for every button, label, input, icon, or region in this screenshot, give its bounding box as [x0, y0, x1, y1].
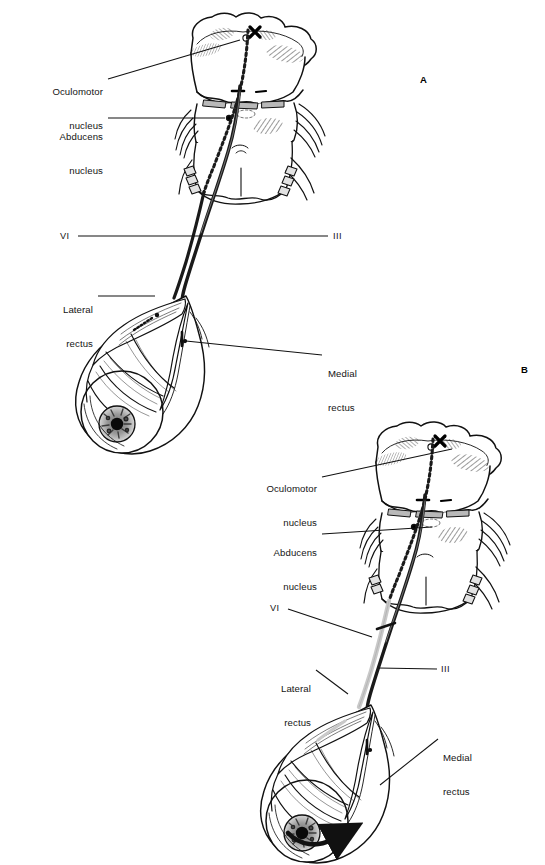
- label-line-1: Oculomotor: [222, 483, 317, 494]
- label-line-1: Medial: [443, 752, 523, 763]
- label-line-2: nucleus: [8, 165, 103, 176]
- label-lateral-rectus-b: Lateral rectus: [236, 660, 311, 751]
- label-abducens-nucleus-b: Abducens nucleus: [222, 524, 317, 615]
- label-line-2: nucleus: [222, 581, 317, 592]
- label-line-1: Medial: [328, 368, 408, 379]
- panel-letter-a: A: [420, 74, 427, 85]
- leader-medial-rectus-a: [186, 341, 322, 355]
- panel-a-artwork: [76, 13, 328, 454]
- pupil-a: [111, 418, 123, 430]
- label-line-1: Abducens: [8, 131, 103, 142]
- label-line-2: rectus: [328, 402, 408, 413]
- label-line-1: Oculomotor: [8, 86, 103, 97]
- leader-lateral-rectus-b: [316, 670, 348, 694]
- leader-iii-b: [378, 668, 437, 669]
- panel-letter-b: B: [521, 364, 528, 375]
- label-nerve-iii-b: III: [441, 664, 450, 674]
- label-medial-rectus-a: Medial rectus: [328, 345, 408, 436]
- label-line-1: Lateral: [18, 304, 93, 315]
- label-nerve-iii-a: III: [333, 231, 342, 241]
- brainstem-b: [360, 422, 510, 613]
- label-line-1: Lateral: [236, 683, 311, 694]
- label-line-2: rectus: [18, 338, 93, 349]
- label-nerve-vi-a: VI: [60, 231, 69, 241]
- label-nerve-vi-b: VI: [270, 603, 279, 613]
- label-line-2: rectus: [443, 786, 523, 797]
- label-lateral-rectus-a: Lateral rectus: [18, 281, 93, 372]
- label-medial-rectus-b: Medial rectus: [443, 729, 523, 820]
- label-line-1: Abducens: [222, 547, 317, 558]
- brainstem-a: [175, 13, 325, 204]
- orbit-a: [76, 296, 209, 454]
- label-abducens-nucleus-a: Abducens nucleus: [8, 108, 103, 199]
- pupil-b: [296, 827, 308, 839]
- figure-root: Oculomotor nucleus Abducens nucleus Late…: [0, 0, 545, 865]
- label-line-2: rectus: [236, 717, 311, 728]
